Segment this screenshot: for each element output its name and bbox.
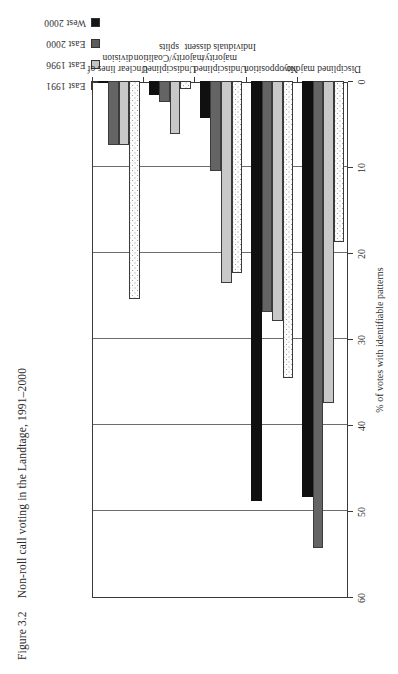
category-group bbox=[195, 83, 246, 597]
x-axis-tick bbox=[348, 597, 353, 598]
bar bbox=[98, 81, 109, 83]
bar bbox=[221, 81, 232, 283]
bar bbox=[334, 81, 345, 242]
y-axis-tick bbox=[246, 77, 247, 82]
x-axis-tick-label: 60 bbox=[356, 583, 367, 613]
figure-number: Figure 3.2 bbox=[16, 611, 28, 660]
y-axis-tick bbox=[143, 77, 144, 82]
figure-container: Figure 3.2Non-roll call voting in the La… bbox=[0, 0, 398, 674]
bar bbox=[302, 81, 313, 497]
x-axis-tick bbox=[348, 167, 353, 168]
bar bbox=[159, 81, 170, 102]
figure-caption: Figure 3.2Non-roll call voting in the La… bbox=[16, 368, 28, 660]
bar bbox=[313, 81, 324, 548]
legend-label: East 1991 bbox=[46, 81, 86, 91]
x-axis-tick-label: 20 bbox=[356, 239, 367, 269]
bar bbox=[129, 81, 140, 299]
x-axis-tick-label: 10 bbox=[356, 153, 367, 183]
x-axis-tick bbox=[348, 253, 353, 254]
bar bbox=[149, 81, 160, 95]
x-axis-title: % of votes with identifiable patterns bbox=[374, 245, 385, 435]
x-axis-tick bbox=[348, 511, 353, 512]
legend-label: East 2000 bbox=[46, 39, 86, 49]
legend-item-east-2000[interactable]: East 2000 bbox=[46, 39, 100, 49]
y-axis-tick bbox=[297, 77, 298, 82]
legend-label: West 2000 bbox=[44, 18, 86, 28]
bar bbox=[119, 81, 130, 145]
bar bbox=[210, 81, 221, 171]
category-group bbox=[298, 83, 349, 597]
x-axis-tick-label: 30 bbox=[356, 325, 367, 355]
bar bbox=[232, 81, 243, 273]
category-group bbox=[144, 83, 195, 597]
bar bbox=[200, 81, 211, 118]
y-axis-tick bbox=[194, 77, 195, 82]
bar bbox=[180, 81, 191, 89]
x-axis-tick-label: 40 bbox=[356, 411, 367, 441]
bar bbox=[251, 81, 262, 501]
bar bbox=[170, 81, 181, 134]
bar bbox=[272, 81, 283, 321]
legend-swatch-icon bbox=[91, 19, 100, 28]
plot-area bbox=[92, 82, 348, 598]
bar bbox=[323, 81, 334, 404]
figure-title-text: Non-roll call voting in the Landtage, 19… bbox=[16, 368, 28, 598]
x-axis-tick bbox=[348, 339, 353, 340]
legend-swatch-icon bbox=[91, 40, 100, 49]
y-axis-tick bbox=[92, 77, 93, 82]
x-axis-tick bbox=[348, 425, 353, 426]
bar bbox=[262, 81, 273, 312]
rotated-figure-canvas: Figure 3.2Non-roll call voting in the La… bbox=[0, 0, 398, 674]
category-label: Unclear lines of division bbox=[74, 52, 162, 74]
category-group bbox=[247, 83, 298, 597]
x-axis-tick bbox=[348, 81, 353, 82]
category-group bbox=[93, 83, 144, 597]
x-axis-tick-label: 50 bbox=[356, 497, 367, 527]
legend-item-west-2000[interactable]: West 2000 bbox=[44, 18, 100, 28]
bar bbox=[108, 81, 119, 146]
bar bbox=[283, 81, 294, 378]
